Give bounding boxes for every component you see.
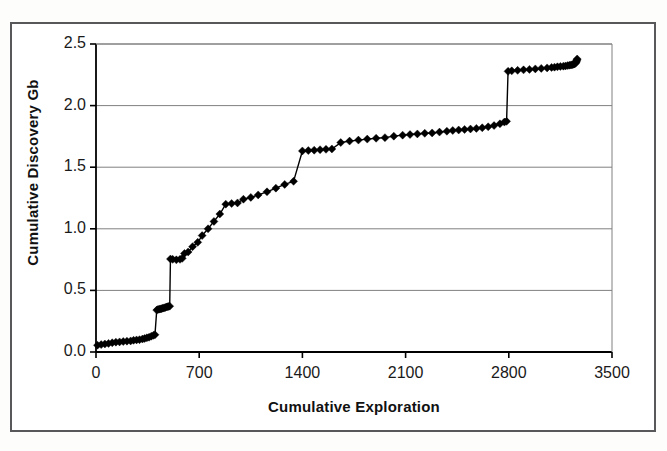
data-point-marker [281, 180, 289, 188]
data-point-marker [390, 132, 398, 140]
data-point-marker [413, 130, 421, 138]
data-point-marker [263, 188, 271, 196]
data-series-group [93, 55, 581, 349]
data-point-marker [428, 129, 436, 137]
figure-root: Cumulative Discovery Gb Cumulative Explo… [0, 0, 667, 451]
plot-canvas [0, 0, 667, 451]
data-point-marker [436, 128, 444, 136]
data-point-marker [354, 136, 362, 144]
data-point-marker [484, 123, 492, 131]
data-point-marker [406, 131, 414, 139]
data-point-marker [290, 177, 298, 185]
data-point-marker [346, 137, 354, 145]
tick-mark-group [90, 44, 612, 358]
data-point-marker [421, 129, 429, 137]
data-point-marker [399, 131, 407, 139]
data-point-marker [363, 135, 371, 143]
data-point-marker [381, 134, 389, 142]
gridline-group [96, 44, 612, 290]
data-point-marker [247, 193, 255, 201]
data-point-marker [254, 191, 262, 199]
data-point-marker [272, 184, 280, 192]
data-point-marker [372, 134, 380, 142]
chart-area: Cumulative Discovery Gb Cumulative Explo… [0, 0, 667, 451]
